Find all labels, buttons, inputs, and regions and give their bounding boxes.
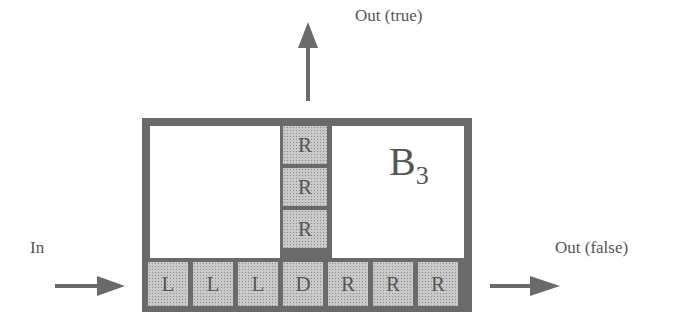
row-cell: L — [193, 262, 233, 306]
up-arrow-icon — [296, 22, 320, 102]
row-cell: D — [283, 262, 323, 306]
row-cell: L — [238, 262, 278, 306]
column-cell: R — [283, 210, 327, 248]
block-label: B3 — [389, 138, 429, 191]
out-false-arrow-icon — [490, 275, 562, 297]
column-cell: R — [283, 126, 327, 164]
row-cell: L — [148, 262, 188, 306]
row-cell: R — [418, 262, 458, 306]
out-false-label: Out (false) — [555, 238, 628, 258]
block-frame: B3 R R R L L L D R R R — [142, 118, 472, 312]
row-cells: L L L D R R R — [148, 262, 458, 306]
in-label: In — [30, 238, 44, 258]
left-pane — [150, 126, 280, 258]
column-cell: R — [283, 168, 327, 206]
in-arrow-icon — [55, 275, 127, 297]
row-cell: R — [328, 262, 368, 306]
column-cells: R R R — [283, 126, 330, 248]
out-true-label: Out (true) — [355, 6, 423, 26]
row-cell: R — [373, 262, 413, 306]
